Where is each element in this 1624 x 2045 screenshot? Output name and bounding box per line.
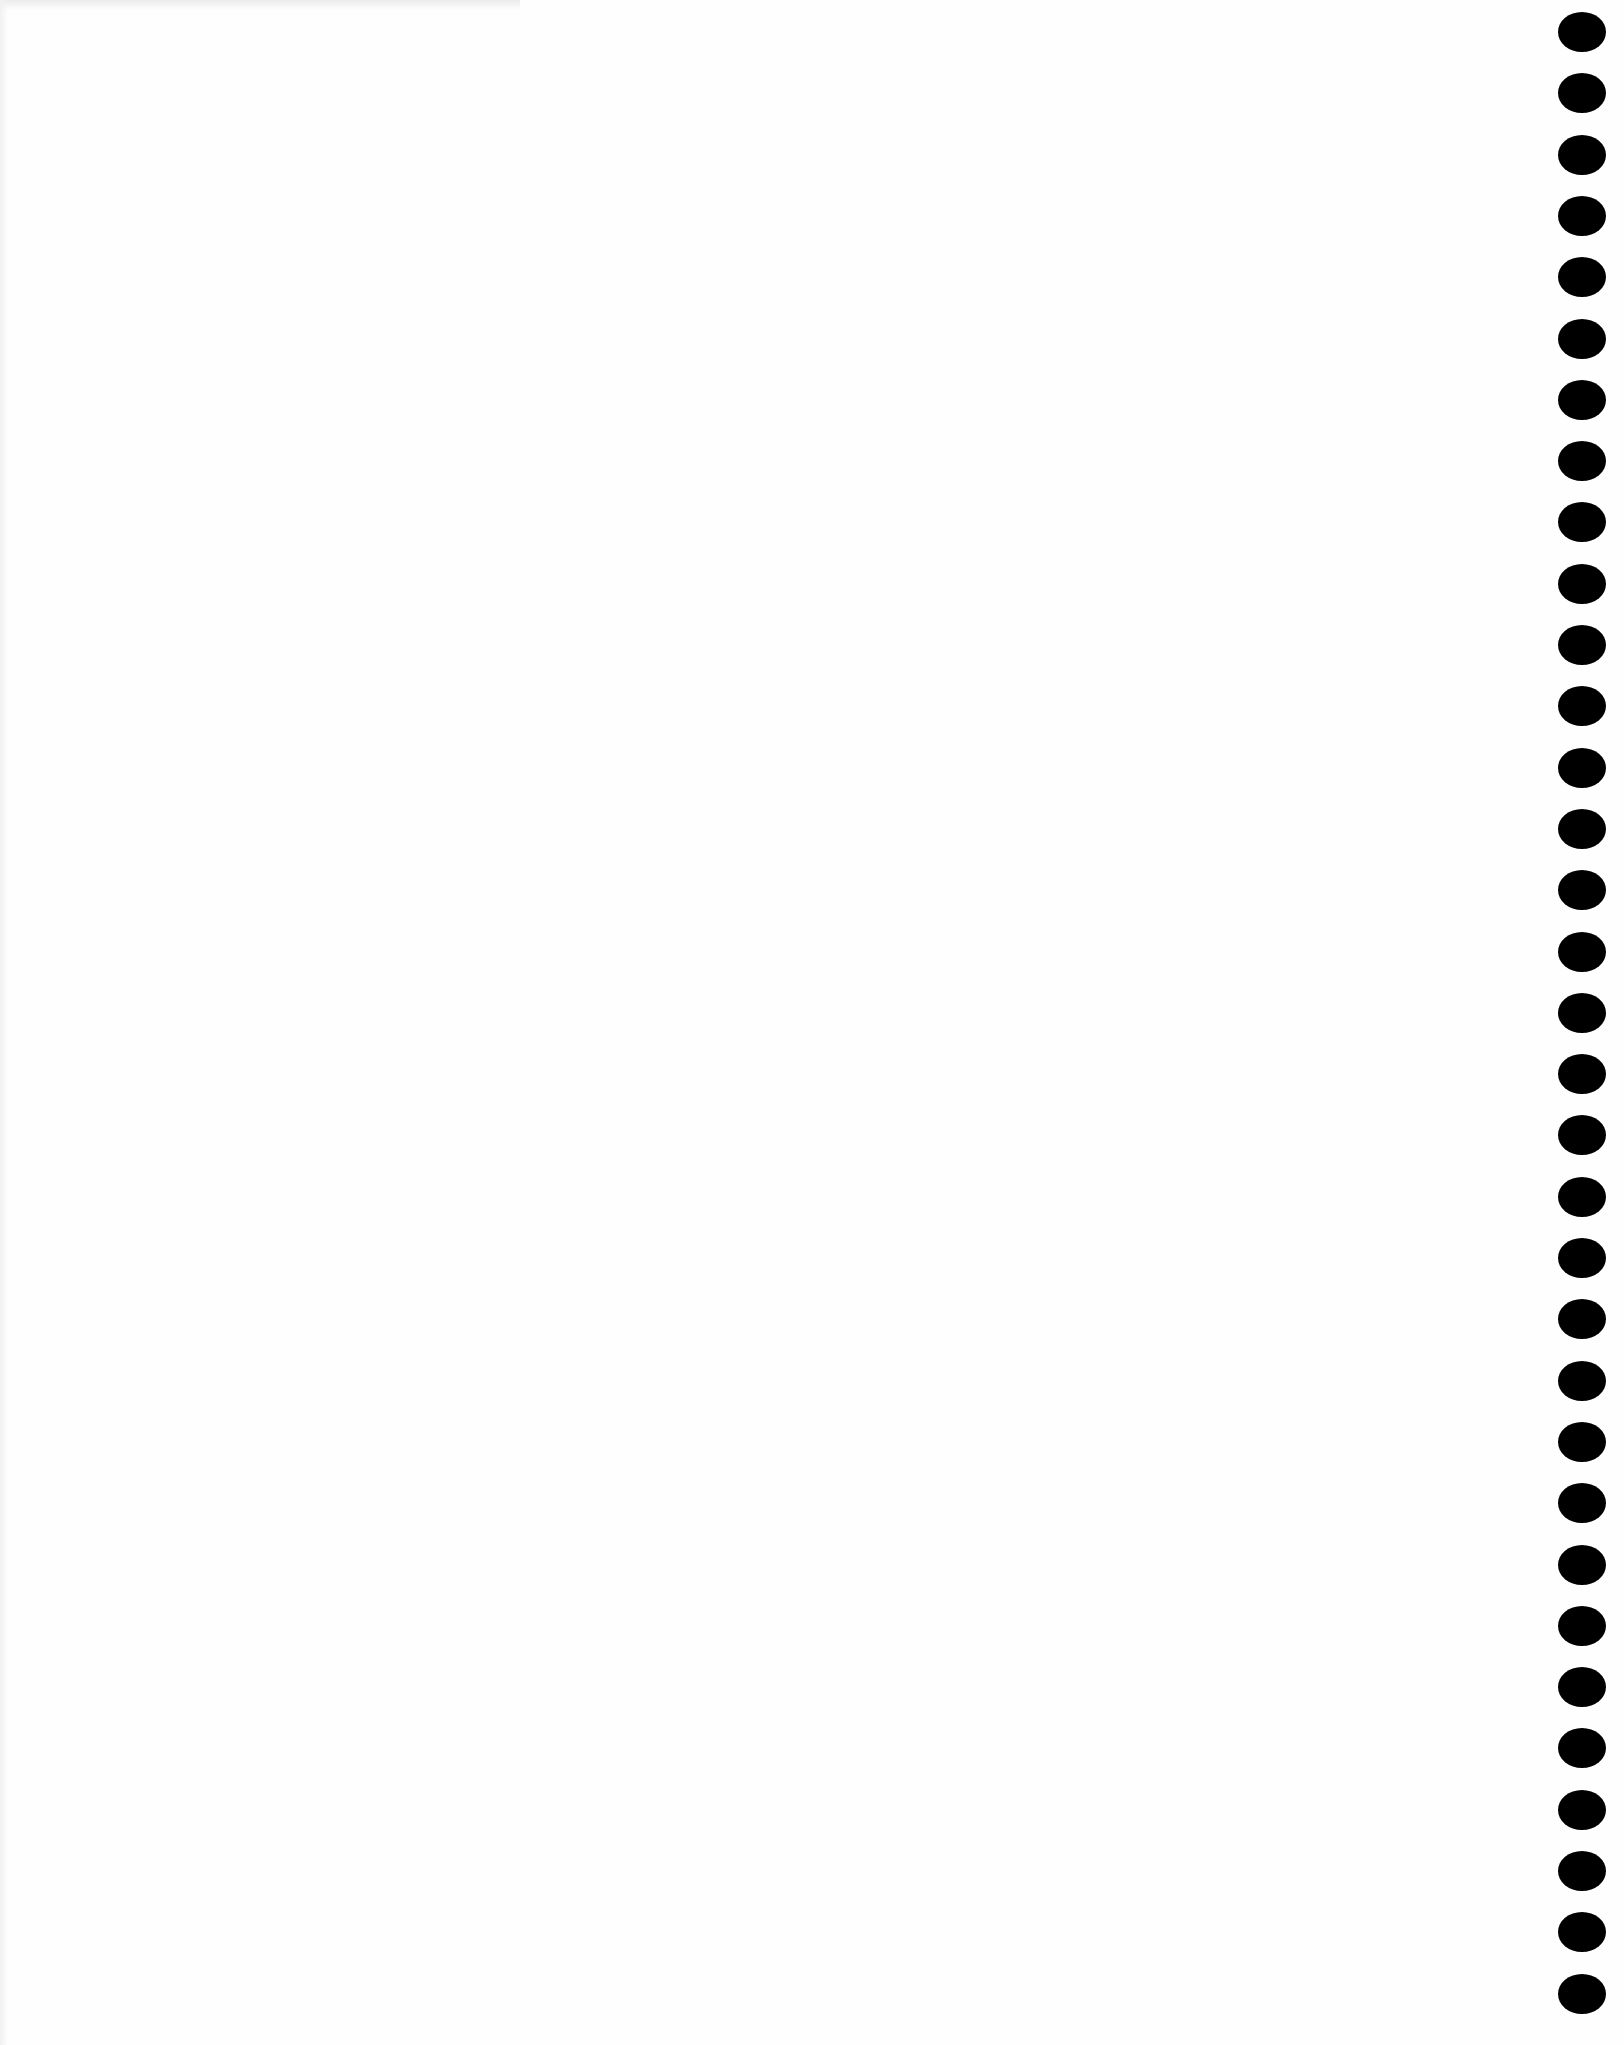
binding-hole bbox=[1558, 1361, 1606, 1401]
binding-hole bbox=[1558, 1238, 1606, 1278]
binding-hole bbox=[1558, 502, 1606, 542]
binding-hole bbox=[1558, 196, 1606, 236]
blank-page bbox=[0, 0, 1624, 2045]
binding-hole bbox=[1558, 1422, 1606, 1462]
binding-hole bbox=[1558, 1912, 1606, 1952]
binding-hole bbox=[1558, 564, 1606, 604]
binding-hole bbox=[1558, 380, 1606, 420]
binding-hole bbox=[1558, 441, 1606, 481]
binding-hole bbox=[1558, 870, 1606, 910]
binding-hole bbox=[1558, 993, 1606, 1033]
binding-hole bbox=[1558, 748, 1606, 788]
binding-hole bbox=[1558, 1177, 1606, 1217]
binding-hole bbox=[1558, 1545, 1606, 1585]
binding-hole bbox=[1558, 135, 1606, 175]
binding-hole bbox=[1558, 1115, 1606, 1155]
binding-hole bbox=[1558, 686, 1606, 726]
binding-hole bbox=[1558, 932, 1606, 972]
binding-hole bbox=[1558, 1667, 1606, 1707]
binding-hole bbox=[1558, 1790, 1606, 1830]
binding-hole bbox=[1558, 1299, 1606, 1339]
binding-hole bbox=[1558, 1728, 1606, 1768]
binding-hole bbox=[1558, 257, 1606, 297]
binding-holes bbox=[1558, 0, 1608, 2045]
binding-hole bbox=[1558, 1054, 1606, 1094]
scan-shadow-top bbox=[0, 0, 520, 10]
binding-hole bbox=[1558, 1974, 1606, 2014]
binding-hole bbox=[1558, 625, 1606, 665]
binding-hole bbox=[1558, 73, 1606, 113]
binding-hole bbox=[1558, 1483, 1606, 1523]
scan-shadow-left bbox=[0, 0, 8, 2045]
binding-hole bbox=[1558, 1606, 1606, 1646]
binding-hole bbox=[1558, 809, 1606, 849]
binding-hole bbox=[1558, 319, 1606, 359]
binding-hole bbox=[1558, 12, 1606, 52]
binding-hole bbox=[1558, 1851, 1606, 1891]
